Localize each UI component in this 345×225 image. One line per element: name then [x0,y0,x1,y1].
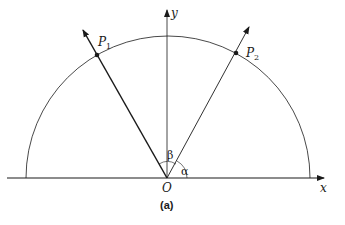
label-alpha: α [181,165,189,178]
vector-op2 [167,27,249,178]
semicircle-diagram: P1 P2 y x O β α (a) [0,0,345,225]
label-beta: β [167,149,173,162]
figure-caption: (a) [160,199,174,211]
point-p2 [234,51,239,56]
point-p1 [95,53,100,58]
label-origin: O [162,181,172,195]
label-p2: P2 [245,46,259,62]
label-x-axis: x [320,181,327,195]
label-y-axis: y [170,6,178,20]
label-p1: P1 [97,35,111,51]
vector-op1 [83,30,167,178]
